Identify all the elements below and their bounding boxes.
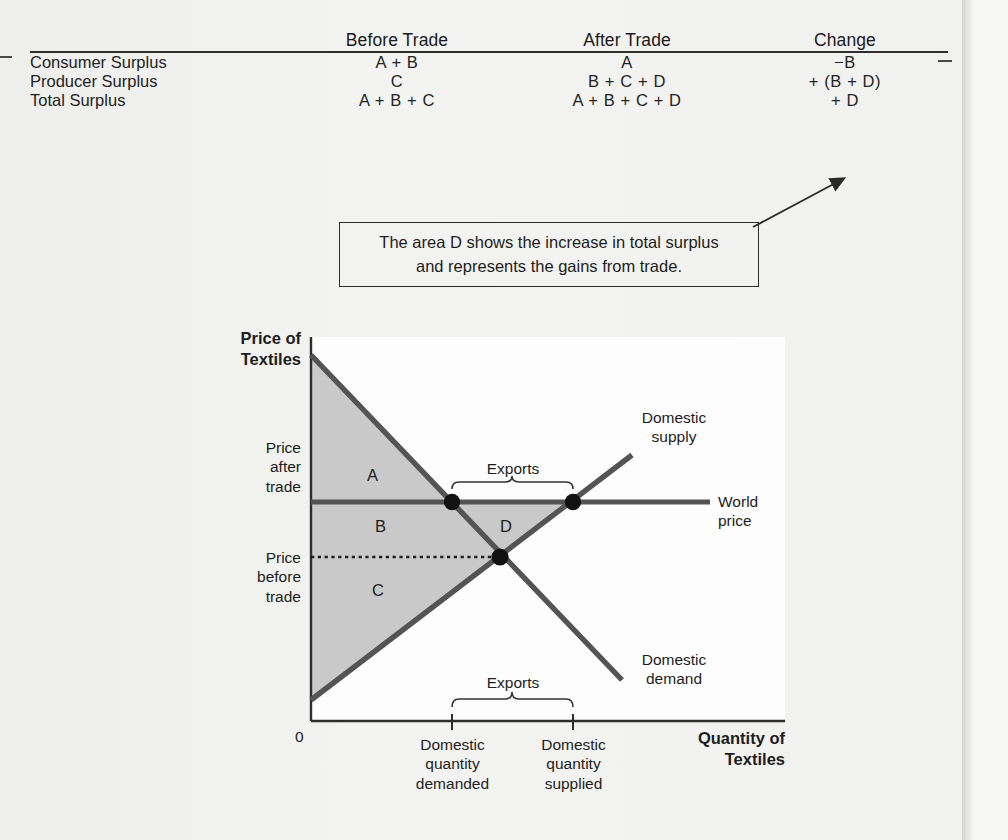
area-label-b: B (375, 517, 386, 536)
x-axis-title: Quantity of Textiles (660, 728, 785, 769)
callout-line-1: The area D shows the increase in total s… (379, 233, 718, 251)
surplus-summary-table: Before Trade After Trade Change Consumer… (30, 30, 948, 110)
exports-label-upper: Exports (459, 459, 567, 478)
table-row: Total Surplus A + B + C A + B + C + D + … (30, 91, 948, 110)
domestic-supply-label: Domestic supply (628, 408, 720, 447)
callout-line-2: and represents the gains from trade. (416, 257, 682, 275)
cell-producer-after: B + C + D (512, 72, 742, 91)
page-right-margin (972, 0, 1008, 840)
cell-total-after: A + B + C + D (512, 91, 742, 110)
table-row: Producer Surplus C B + C + D + (B + D) (30, 72, 948, 91)
cell-producer-before: C (282, 72, 512, 91)
left-margin-rule (0, 56, 12, 58)
exports-label-lower: Exports (459, 673, 567, 692)
page-edge-shadow (962, 0, 972, 840)
table-header-change: Change (742, 30, 948, 51)
world-price-label: World price (718, 492, 788, 531)
domestic-quantity-demanded-label: Domestic quantity demanded (400, 735, 505, 793)
callout-box: The area D shows the increase in total s… (339, 222, 759, 287)
cell-consumer-change: −B (742, 52, 948, 72)
table-header-row: Before Trade After Trade Change (30, 30, 948, 51)
price-after-trade-label: Price after trade (221, 438, 301, 496)
table-header-after-trade: After Trade (512, 30, 742, 51)
cell-total-before: A + B + C (282, 91, 512, 110)
cell-total-change: + D (742, 91, 948, 110)
y-axis-title: Price of Textiles (206, 328, 301, 369)
row-label-producer-surplus: Producer Surplus (30, 72, 282, 91)
origin-label: 0 (295, 727, 304, 746)
domestic-demand-label: Domestic demand (628, 650, 720, 689)
cell-consumer-before: A + B (282, 52, 512, 72)
area-label-d: D (500, 517, 512, 536)
area-label-c: C (372, 581, 384, 600)
domestic-quantity-supplied-label: Domestic quantity supplied (521, 735, 626, 793)
table-row: Consumer Surplus A + B A −B (30, 52, 948, 72)
cell-producer-change: + (B + D) (742, 72, 948, 91)
table-header-blank (30, 30, 282, 51)
callout-text: The area D shows the increase in total s… (371, 231, 726, 278)
price-before-trade-label: Price before trade (221, 548, 301, 606)
area-label-a: A (367, 466, 378, 485)
row-label-consumer-surplus: Consumer Surplus (30, 52, 282, 72)
table-header-before-trade: Before Trade (282, 30, 512, 51)
page-background (0, 0, 968, 840)
cell-consumer-after: A (512, 52, 742, 72)
row-label-total-surplus: Total Surplus (30, 91, 282, 110)
